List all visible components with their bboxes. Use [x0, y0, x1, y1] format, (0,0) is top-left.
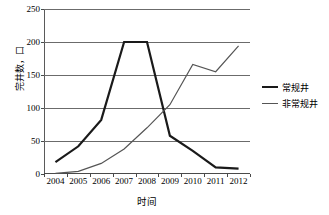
series-line	[55, 42, 238, 169]
x-axis-tick-label: 2007	[115, 176, 133, 187]
y-axis-tick-label: 100	[27, 104, 41, 113]
y-axis-tick-label: 50	[31, 137, 40, 146]
legend-item[interactable]: 常规井	[262, 79, 328, 95]
y-axis-tick-labels: 050100150200250	[14, 0, 40, 215]
plot-area	[44, 9, 250, 174]
x-axis-tick-label: 2004	[46, 176, 64, 187]
legend-swatch-icon	[262, 103, 278, 104]
y-axis-tick-label: 200	[27, 38, 41, 47]
x-axis-title: 时间	[44, 194, 250, 208]
x-axis-tickmark	[250, 174, 251, 177]
x-axis-tick-label: 2006	[92, 176, 110, 187]
series-line	[55, 46, 238, 173]
x-axis-tick-labels: 200420052006200720082009201020112012	[44, 176, 250, 190]
legend-label: 非常规井	[282, 97, 318, 110]
legend: 常规井非常规井	[262, 79, 328, 111]
series-lines	[44, 9, 250, 174]
y-axis-tick-label: 0	[36, 170, 41, 179]
legend-label: 常规井	[282, 81, 309, 94]
legend-swatch-icon	[262, 86, 278, 88]
y-axis-tick-label: 250	[27, 5, 41, 14]
x-axis-tick-label: 2010	[184, 176, 202, 187]
x-axis-tick-label: 2011	[207, 176, 225, 187]
x-axis-tick-label: 2008	[138, 176, 156, 187]
x-axis-tick-label: 2009	[161, 176, 179, 187]
legend-item[interactable]: 非常规井	[262, 95, 328, 111]
y-axis-tick-label: 150	[27, 71, 41, 80]
line-chart: 完井数，口 050100150200250 200420052006200720…	[0, 0, 329, 215]
x-axis-tick-label: 2012	[230, 176, 248, 187]
x-axis-tick-label: 2005	[69, 176, 87, 187]
